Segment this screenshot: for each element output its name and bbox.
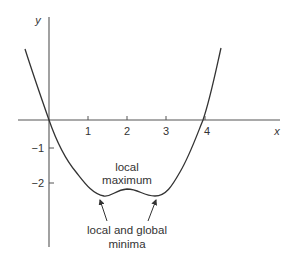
x-tick-label-4: 4: [204, 125, 210, 137]
x-tick-label-2: 2: [124, 125, 130, 137]
minima-label-line2: minima: [108, 238, 146, 250]
y-ticks: [49, 148, 54, 183]
local-maximum-label-line2: maximum: [102, 174, 152, 186]
left-minimum-arrow-icon: [100, 200, 107, 221]
local-maximum-label-line1: local: [115, 161, 139, 173]
x-tick-label-1: 1: [85, 125, 91, 137]
x-ticks: [88, 116, 205, 120]
right-minimum-arrow-icon: [148, 200, 156, 221]
x-tick-label-3: 3: [163, 125, 169, 137]
minima-label-line1: local and global: [87, 224, 167, 236]
y-tick-label-neg2: −2: [31, 177, 44, 189]
plot-canvas: 1 2 3 4 −1 −2 x y local maximum local an…: [0, 0, 295, 264]
y-tick-label-neg1: −1: [31, 142, 44, 154]
y-axis-label: y: [34, 14, 42, 26]
x-axis-label: x: [273, 125, 280, 137]
function-plot: 1 2 3 4 −1 −2 x y local maximum local an…: [0, 0, 295, 264]
